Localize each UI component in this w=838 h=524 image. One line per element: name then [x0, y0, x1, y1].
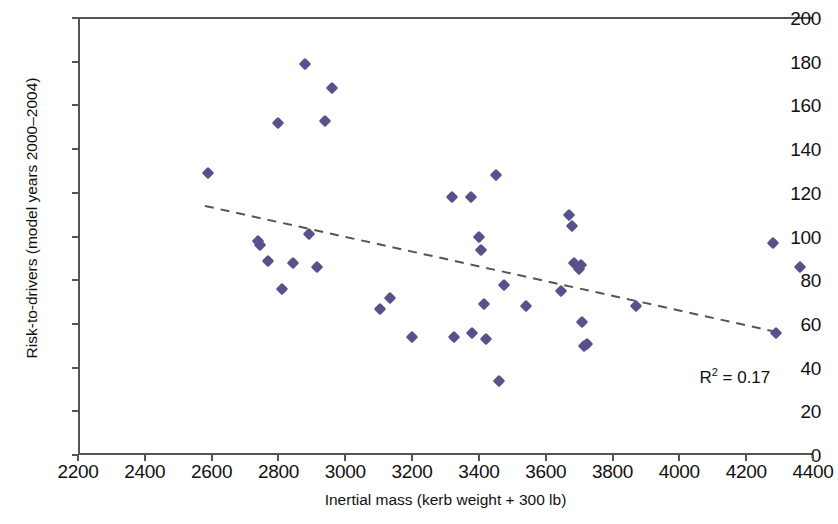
y-tick-mark — [72, 192, 79, 194]
y-tick-label: 200 — [777, 9, 821, 28]
x-tick-label: 4400 — [773, 462, 838, 481]
x-tick-mark — [411, 455, 413, 461]
y-tick-mark — [72, 323, 79, 325]
y-tick-label: 40 — [777, 359, 821, 378]
y-tick-mark — [72, 279, 79, 281]
x-axis-title: Inertial mass (kerb weight + 300 lb) — [78, 492, 813, 508]
y-tick-label: 20 — [777, 402, 821, 421]
y-tick-label: 100 — [777, 228, 821, 247]
y-tick-mark — [72, 367, 79, 369]
y-tick-label: 180 — [777, 53, 821, 72]
y-tick-label: 60 — [777, 315, 821, 334]
y-tick-mark — [72, 104, 79, 106]
y-tick-mark — [72, 410, 79, 412]
y-tick-label: 140 — [777, 140, 821, 159]
y-tick-mark — [72, 148, 79, 150]
y-tick-label: 80 — [777, 271, 821, 290]
x-tick-mark — [344, 455, 346, 461]
x-tick-mark — [745, 455, 747, 461]
r2-value: = 0.17 — [718, 368, 770, 387]
y-axis-title: Risk-to-drivers (model years 2000–2004) — [24, 18, 40, 418]
r-squared-annotation: R2 = 0.17 — [699, 363, 770, 387]
x-tick-mark — [612, 455, 614, 461]
x-tick-mark — [478, 455, 480, 461]
y-tick-label: 120 — [777, 184, 821, 203]
y-tick-mark — [72, 61, 79, 63]
plot-area — [78, 18, 813, 455]
x-tick-mark — [211, 455, 213, 461]
x-tick-mark — [678, 455, 680, 461]
x-tick-mark — [77, 455, 79, 461]
y-tick-label: 160 — [777, 96, 821, 115]
x-tick-mark — [812, 455, 814, 461]
x-tick-mark — [277, 455, 279, 461]
x-tick-mark — [144, 455, 146, 461]
x-tick-mark — [545, 455, 547, 461]
y-tick-mark — [72, 236, 79, 238]
r2-prefix: R — [699, 368, 711, 387]
y-tick-mark — [72, 17, 79, 19]
